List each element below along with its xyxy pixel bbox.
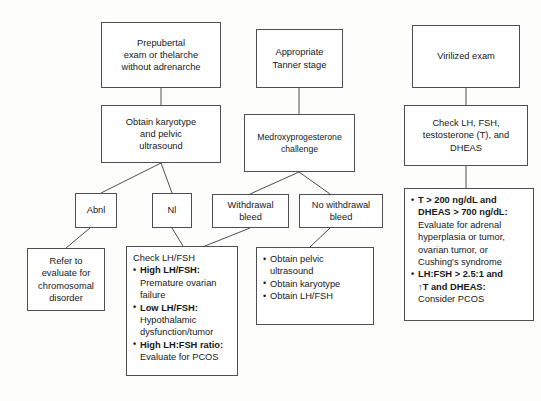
bullet-detail-line: Cushing's syndrome [411,256,528,268]
node-line: Appropriate [260,46,339,58]
bullet-detail-line: Consider PCOS [411,293,528,305]
node-line: Check LH, FSH, [408,117,524,129]
node-line: Prepubertal [105,37,217,49]
bullet-item: Low LH/FSH: [133,302,232,314]
bullet-detail-line: Evaluate for PCOS [133,351,232,363]
node-line: bleed [303,211,379,223]
bullet-detail-line: hyperplasia or tumor, [411,231,528,243]
node-line: chromosomal [31,280,101,292]
node-check-lh-fsh-results: Check LH/FSH High LH/FSH: Premature ovar… [126,246,238,376]
node-line: Refer to [31,255,101,267]
bullet-detail-line: ultrasound [263,265,368,277]
node-line: Withdrawal [216,199,285,211]
node-line: Medroxyprogesterone [248,131,351,143]
bullet-detail-line: Evaluate for adrenal [411,219,528,231]
node-line: disorder [31,292,101,304]
node-line: DHEAS [408,142,524,154]
node-line: evaluate for [31,267,101,279]
virilized-results-bullets: T > 200 ng/dL and DHEAS > 700 ng/dL: Eva… [411,194,528,306]
node-line: Virilized exam [416,50,516,62]
bullet-item: T > 200 ng/dL and [411,194,528,206]
bullet-detail-line: dysfunction/tumor [133,326,232,338]
flowchart-canvas: Prepubertal exam or thelarche without ad… [0,0,541,401]
node-line: Nl [156,204,188,216]
node-line: testosterone (T), and [408,129,524,141]
node-medroxyprogesterone-challenge: Medroxyprogesterone challenge [244,114,355,172]
node-line: and pelvic [105,128,217,140]
node-obtain-pelvic-workup: Obtain pelvic ultrasound Obtain karyotyp… [256,247,374,325]
bullet-bold-line: ↑T and DHEAS: [411,281,528,293]
node-line: exam or thelarche [105,49,217,61]
node-withdrawal-bleed: Withdrawal bleed [212,194,289,228]
bullet-item: Obtain pelvic [263,253,368,265]
node-line: ultrasound [105,140,217,152]
node-virilized-results: T > 200 ng/dL and DHEAS > 700 ng/dL: Eva… [404,188,534,321]
node-prepubertal-exam: Prepubertal exam or thelarche without ad… [101,22,221,88]
bullet-heading: Check LH/FSH [133,252,232,264]
node-line: without adrenarche [105,61,217,73]
node-no-withdrawal-bleed: No withdrawal bleed [299,194,383,228]
node-abnl: Abnl [75,193,117,228]
bullet-item: Obtain LH/FSH [263,290,368,302]
bullet-item: High LH:FSH ratio: [133,339,232,351]
bullet-item: LH:FSH > 2.5:1 and [411,268,528,280]
bullet-detail-line: Premature ovarian [133,277,232,289]
node-virilized-exam: Virilized exam [412,25,520,88]
node-nl: Nl [152,193,192,228]
bullet-detail-line: failure [133,289,232,301]
node-refer-chromosomal-disorder: Refer to evaluate for chromosomal disord… [27,248,105,311]
node-line: bleed [216,211,285,223]
check-lh-fsh-bullets: Check LH/FSH High LH/FSH: Premature ovar… [133,252,232,364]
bullet-detail-line: Hypothalamic [133,314,232,326]
node-check-lh-fsh-testosterone-dheas: Check LH, FSH, testosterone (T), and DHE… [404,105,528,166]
bullet-detail-line: ovarian tumor, or [411,244,528,256]
bullet-item: Obtain karyotype [263,278,368,290]
node-line: Abnl [79,204,113,216]
node-line: No withdrawal [303,199,379,211]
bullet-bold-line: DHEAS > 700 ng/dL: [411,206,528,218]
bullet-item: High LH/FSH: [133,264,232,276]
obtain-pelvic-bullets: Obtain pelvic ultrasound Obtain karyotyp… [263,253,368,303]
node-line: challenge [248,143,351,155]
node-appropriate-tanner-stage: Appropriate Tanner stage [256,29,343,88]
node-line: Tanner stage [260,59,339,71]
node-line: Obtain karyotype [105,116,217,128]
node-obtain-karyotype-pelvic-ultrasound: Obtain karyotype and pelvic ultrasound [101,105,221,163]
